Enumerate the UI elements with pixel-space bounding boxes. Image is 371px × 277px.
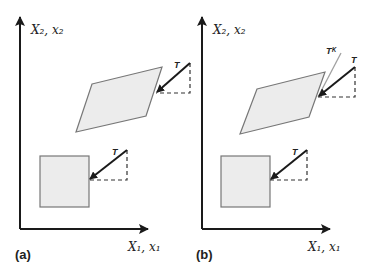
traction-arrow <box>271 150 307 179</box>
y-axis-label: X₂, x₂ <box>212 23 246 37</box>
panel-a: X₂, x₂ X₁, x₁ (a) T T <box>15 17 190 262</box>
y-axis-label: X₂, x₂ <box>30 23 64 37</box>
diagram-canvas: X₂, x₂ X₁, x₁ (a) T T X₂, x₂ X₁, x₁ (b) … <box>0 0 371 277</box>
panel-label: (b) <box>196 247 213 262</box>
x-axis-label: X₁, x₁ <box>127 240 161 254</box>
reference-body <box>221 156 270 207</box>
panel-label: (a) <box>15 247 31 262</box>
traction-label: T <box>112 147 119 157</box>
traction-arrow <box>90 150 127 179</box>
deformed-body <box>240 72 325 134</box>
traction-label: T <box>351 55 358 65</box>
panel-b: X₂, x₂ X₁, x₁ (b) Tᴷ T T <box>196 17 358 262</box>
traction-arrow <box>319 67 355 96</box>
x-axis-label: X₁, x₁ <box>307 240 341 254</box>
traction-label: T <box>174 60 181 70</box>
reference-body <box>40 156 89 207</box>
traction-label: T <box>292 147 299 157</box>
deformed-body <box>76 67 162 132</box>
kappa-traction-label: Tᴷ <box>326 46 337 56</box>
